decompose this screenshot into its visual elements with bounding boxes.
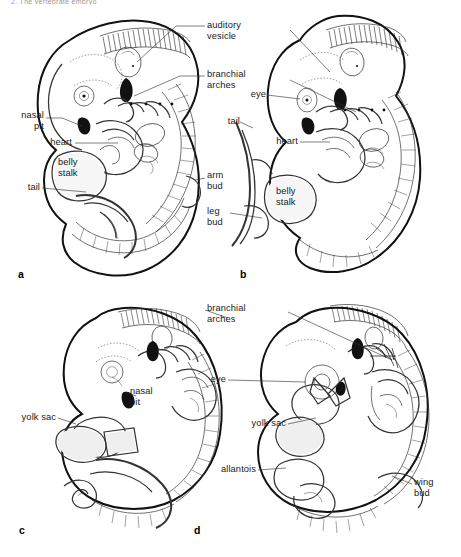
label-tail-a: tail (2, 182, 40, 193)
label-leg-bud-b: leg bud (207, 206, 223, 227)
label-heart-a: heart (2, 137, 72, 148)
label-belly-stalk-a: belly stalk (58, 157, 78, 178)
label-allantois-d: allantois (196, 464, 256, 475)
label-nasal-pit-c: nasal pit (130, 386, 153, 407)
label-yolk-sac-d: yolk sac (232, 418, 286, 429)
label-branchial-arches-d: branchial arches (207, 303, 246, 324)
label-belly-stalk-b: belly stalk (276, 186, 296, 207)
label-nasal-pit-a: nasal pit (2, 110, 44, 131)
label-tail-b: tail (218, 116, 240, 127)
label-eye-b: eye (240, 89, 266, 100)
panel-letter-d: d (194, 524, 200, 536)
panel-c-drawing (56, 308, 222, 528)
panel-letter-b: b (240, 268, 246, 280)
panel-letter-c: c (19, 524, 25, 536)
label-branchial-arches-top: branchial arches (207, 69, 246, 90)
label-yolk-sac-c: yolk sac (4, 412, 56, 423)
label-eye-d: eye (198, 374, 226, 385)
panel-a-drawing (38, 21, 201, 276)
label-arm-bud-a: arm bud (207, 170, 223, 191)
label-wing-bud-d: wing bud (414, 477, 434, 498)
label-heart-b: heart (258, 136, 298, 147)
panel-letter-a: a (18, 268, 24, 280)
label-auditory-vesicle: auditory vesicle (207, 20, 241, 41)
figure-canvas: 2. The vertebrate embryo (0, 0, 461, 557)
